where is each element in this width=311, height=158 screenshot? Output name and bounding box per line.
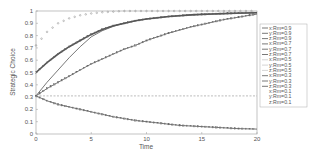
x-tick-label: 0 [34, 136, 38, 142]
y-tick-label: 0.8 [25, 33, 34, 39]
y-tick-label: 0.5 [25, 70, 34, 76]
x-tick-label: 20 [254, 136, 261, 142]
y-tick-label: 0.6 [25, 57, 34, 63]
y-tick-label: 0 [30, 131, 34, 137]
y-tick-label: 0.2 [25, 106, 34, 112]
x-tick-label: 15 [198, 136, 205, 142]
y-tick-label: 0.4 [25, 82, 34, 88]
y-tick-label: 0.3 [25, 94, 34, 100]
strategic-choice-chart: 00.10.20.30.40.50.60.70.80.91 05101520 T… [0, 0, 311, 158]
legend: x:Rm=0.9y:Rm=0.9z:Rm=0.9x:Rm=0.7y:Rm=0.7… [260, 24, 307, 107]
x-tick-label: 10 [143, 136, 150, 142]
legend-entry: z:Rm=0.1 [269, 99, 291, 105]
x-axis-label: Time [139, 143, 154, 150]
y-tick-label: 1 [30, 8, 34, 14]
y-axis-label: Strategic Choice [9, 48, 17, 96]
y-tick-label: 0.9 [25, 20, 34, 26]
y-tick-label: 0.7 [25, 45, 34, 51]
x-tick-label: 5 [90, 136, 94, 142]
y-tick-label: 0.1 [25, 119, 34, 125]
plot-frame [36, 11, 257, 134]
